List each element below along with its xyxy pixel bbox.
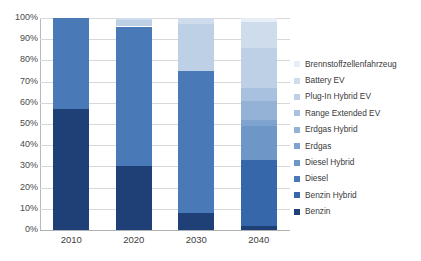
legend-item-label: Diesel Hybrid [305, 158, 354, 167]
y-axis-tick-label: 70% [2, 77, 38, 86]
legend-item-label: Plug-In Hybrid EV [305, 92, 371, 101]
x-axis-tick-label: 2040 [229, 234, 289, 245]
legend-item-label: Brennstoffzellenfahrzeug [305, 60, 397, 69]
bar-segment[interactable] [178, 213, 214, 230]
bar-2030[interactable] [178, 18, 214, 230]
bar-segment[interactable] [53, 18, 89, 109]
y-axis-tick-label: 0% [2, 225, 38, 234]
bar-segment[interactable] [241, 160, 277, 226]
legend-swatch-icon [294, 61, 300, 67]
legend-swatch-icon [294, 192, 300, 198]
bar-segment[interactable] [241, 101, 277, 120]
bar-segment[interactable] [178, 71, 214, 213]
bar-segment[interactable] [178, 24, 214, 71]
bar-segment[interactable] [241, 48, 277, 88]
bar-segment[interactable] [241, 18, 277, 22]
legend-item[interactable]: Diesel [294, 171, 421, 187]
x-axis-tick-label: 2010 [41, 234, 101, 245]
bar-segment[interactable] [116, 27, 152, 167]
bar-segment[interactable] [53, 109, 89, 230]
stacked-bar-chart: 0%10%20%30%40%50%60%70%80%90%100% 201020… [0, 0, 421, 261]
plot-area [40, 18, 290, 230]
legend-item[interactable]: Benzin Hybrid [294, 187, 421, 203]
bar-segment[interactable] [116, 18, 152, 20]
legend-item[interactable]: Erdgas Hybrid [294, 122, 421, 138]
legend-swatch-icon [294, 176, 300, 182]
y-axis-tick-label: 10% [2, 204, 38, 213]
y-axis-tick-label: 50% [2, 119, 38, 128]
y-axis-tick-label: 100% [2, 13, 38, 22]
y-axis-tick-label: 40% [2, 140, 38, 149]
x-axis-tick-label: 2030 [166, 234, 226, 245]
y-axis-tick-label: 80% [2, 55, 38, 64]
x-axis-line [40, 230, 290, 231]
bar-segment[interactable] [116, 20, 152, 26]
bar-segment[interactable] [241, 120, 277, 126]
bar-segment[interactable] [178, 18, 214, 24]
bar-2040[interactable] [241, 18, 277, 230]
bar-segment[interactable] [241, 22, 277, 47]
legend-item[interactable]: Benzin [294, 204, 421, 220]
bar-segment[interactable] [241, 126, 277, 160]
legend-swatch-icon [294, 209, 300, 215]
y-axis-tick-label: 60% [2, 98, 38, 107]
legend-item[interactable]: Diesel Hybrid [294, 154, 421, 170]
bar-segment[interactable] [116, 166, 152, 230]
legend-item[interactable]: Plug-In Hybrid EV [294, 89, 421, 105]
legend-item-label: Benzin Hybrid [305, 191, 357, 200]
bar-segment[interactable] [241, 88, 277, 101]
legend-item[interactable]: Battery EV [294, 72, 421, 88]
legend-item-label: Diesel [305, 174, 328, 183]
legend-item[interactable]: Brennstoffzellenfahrzeug [294, 56, 421, 72]
legend-swatch-icon [294, 127, 300, 133]
legend-swatch-icon [294, 160, 300, 166]
bar-segment[interactable] [241, 226, 277, 230]
legend-item-label: Battery EV [305, 76, 345, 85]
legend-swatch-icon [294, 94, 300, 100]
legend-swatch-icon [294, 110, 300, 116]
y-axis: 0%10%20%30%40%50%60%70%80%90%100% [0, 0, 38, 261]
legend-item-label: Erdgas Hybrid [305, 125, 358, 134]
legend-item-label: Erdgas [305, 142, 331, 151]
x-axis-tick-label: 2020 [104, 234, 164, 245]
legend-item[interactable]: Erdgas [294, 138, 421, 154]
legend-swatch-icon [294, 143, 300, 149]
y-axis-tick-label: 30% [2, 161, 38, 170]
legend-item-label: Range Extended EV [305, 109, 380, 118]
legend-item[interactable]: Range Extended EV [294, 105, 421, 121]
y-axis-tick-label: 90% [2, 34, 38, 43]
bar-2010[interactable] [53, 18, 89, 230]
legend-item-label: Benzin [305, 207, 330, 216]
legend-swatch-icon [294, 78, 300, 84]
y-axis-tick-label: 20% [2, 183, 38, 192]
bar-2020[interactable] [116, 18, 152, 230]
chart-legend: BrennstoffzellenfahrzeugBattery EVPlug-I… [294, 56, 421, 220]
